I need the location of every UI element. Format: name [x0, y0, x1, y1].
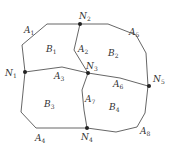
outer-boundary [21, 24, 148, 132]
planar-graph-diagram: N1N2N3N4N5A1A2A3A4A5A6A7A8B1B2B3B4 [0, 0, 175, 154]
edge-label-a5: A5 [128, 27, 140, 38]
node-label-n1: N1 [4, 68, 17, 79]
edge-label-a2: A2 [77, 44, 89, 55]
edge-label-a4: A4 [34, 133, 46, 144]
region-label-b2: B2 [107, 48, 119, 59]
labels: N1N2N3N4N5A1A2A3A4A5A6A7A8B1B2B3B4 [4, 11, 165, 144]
edge-label-a7: A7 [84, 94, 96, 105]
edge-label-a3: A3 [53, 71, 65, 82]
region-label-b1: B1 [45, 44, 56, 55]
edge-label-a8: A8 [139, 126, 151, 137]
edge-label-a1: A1 [23, 25, 34, 36]
node-label-n3: N3 [85, 61, 98, 72]
node-n1 [23, 70, 27, 74]
edge-label-a6: A6 [112, 79, 124, 90]
region-label-b4: B4 [108, 102, 120, 113]
node-n2 [78, 22, 82, 26]
region-label-b3: B3 [43, 99, 55, 110]
node-n3 [86, 71, 90, 75]
node-label-n2: N2 [78, 11, 91, 22]
node-n5 [147, 84, 151, 88]
node-label-n5: N5 [152, 74, 165, 85]
node-label-n4: N4 [80, 132, 93, 143]
node-n4 [85, 126, 89, 130]
